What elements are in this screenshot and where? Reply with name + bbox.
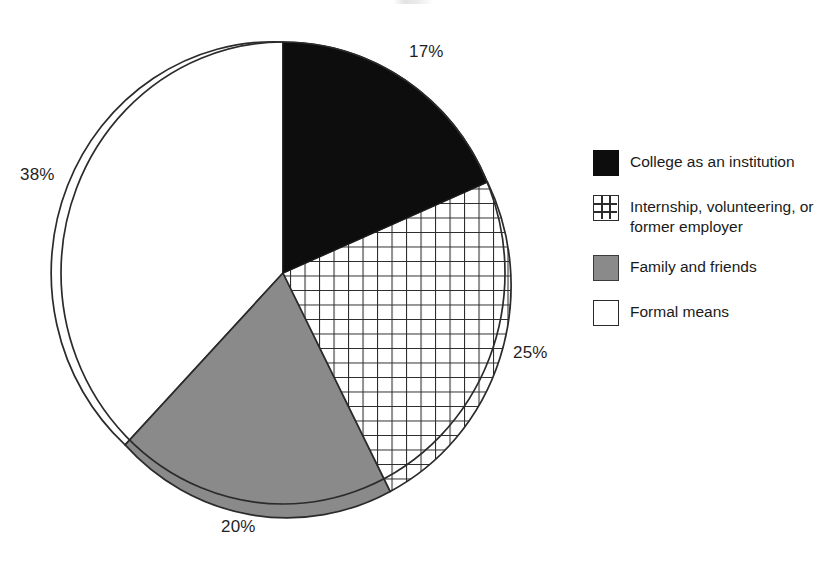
legend-label-formal-means: Formal means [630, 300, 729, 322]
pie-value-label-formal-means: 38% [20, 165, 55, 185]
pie-value-label-internship: 25% [513, 343, 548, 363]
chart-legend: College as an institution Internship, vo… [593, 150, 833, 345]
legend-item-internship-volunteering-former-employer: Internship, volunteering, or former empl… [593, 195, 833, 236]
legend-item-college-as-an-institution: College as an institution [593, 150, 833, 176]
legend-swatch-solid-white-icon [593, 300, 619, 326]
pie-chart-figure: 17% 25% 20% 38% College as an institutio… [0, 0, 839, 565]
legend-label-family-and-friends: Family and friends [630, 255, 757, 277]
legend-item-formal-means: Formal means [593, 300, 833, 326]
legend-swatch-crosshatch-icon [593, 195, 619, 221]
pie-value-label-college-as-an-institution: 17% [409, 42, 444, 62]
legend-label-college-as-an-institution: College as an institution [630, 150, 795, 172]
legend-label-internship-volunteering-former-employer: Internship, volunteering, or former empl… [630, 195, 833, 236]
legend-item-family-and-friends: Family and friends [593, 255, 833, 281]
legend-swatch-solid-gray-icon [593, 255, 619, 281]
pie-value-label-family-and-friends: 20% [221, 517, 256, 537]
legend-swatch-solid-black-icon [593, 150, 619, 176]
